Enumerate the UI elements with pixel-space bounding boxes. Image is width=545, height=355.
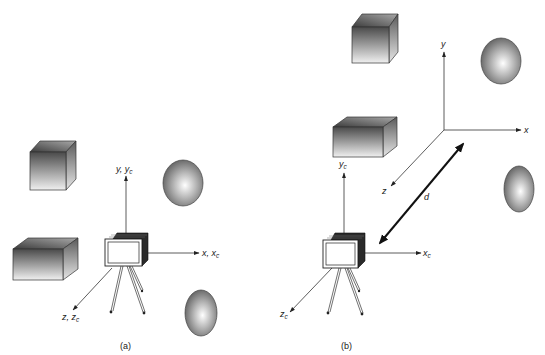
distance-d-arrow [380,144,463,243]
cube-object [30,141,76,190]
camera-on-tripod [105,233,148,314]
world-x-axis-label: x [523,125,529,135]
camera-z-axis [290,268,332,312]
camera-x-axis-label: xc [422,248,432,259]
sphere-object [163,160,203,206]
y-axis-label: y, yc [115,164,133,175]
z-axis [73,268,112,310]
world-z-axis-label: z [381,186,387,196]
x-axis-label: x, xc [201,248,220,259]
sphere-small-object [185,290,217,336]
distance-d-label: d [424,192,430,202]
panel-b: y x z d yc xc zc (b) [279,14,534,351]
box-object [13,238,78,280]
camera-z-axis-label: zc [279,309,289,320]
figure-canvas: y, yc x, xc z, zc (a) [0,0,545,355]
sphere-object [481,38,521,84]
panel-b-caption: (b) [341,341,352,351]
cube-object [352,14,398,63]
camera-on-tripod [323,233,365,315]
world-y-axis-label: y [440,39,446,49]
box-object [333,117,397,157]
panel-a-caption: (a) [120,341,131,351]
camera-y-axis-label: yc [338,159,348,170]
panel-a: y, yc x, xc z, zc (a) [13,141,220,351]
z-axis-label: z, zc [61,312,80,323]
sphere-small-object [504,166,534,212]
